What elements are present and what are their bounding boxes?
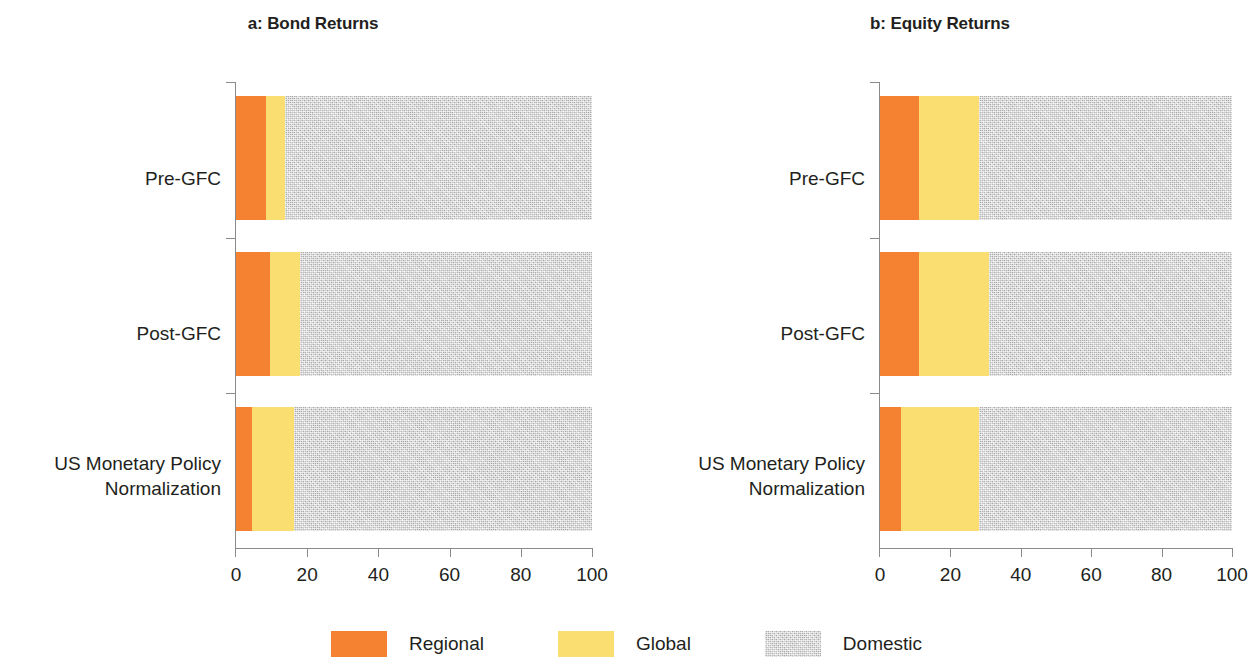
panel-title-bond: a: Bond Returns: [0, 14, 626, 34]
bar-segment-bond-1-global: [270, 252, 300, 376]
y-axis-tick-equity-1: [870, 238, 880, 239]
bar-segment-bond-0-regional: [236, 96, 266, 220]
bar-segment-equity-0-domestic: [979, 96, 1232, 220]
legend-item-domestic: Domestic: [765, 631, 922, 657]
x-axis-tick-equity-0: [879, 548, 880, 557]
bar-equity-2: [880, 407, 1232, 531]
category-label-post-gfc-equity: Post-GFC: [645, 321, 865, 346]
legend-label-domestic: Domestic: [843, 633, 922, 655]
x-axis-tick-label-bond-20: 20: [297, 564, 318, 586]
bar-bond-1: [236, 252, 592, 376]
bar-segment-bond-2-domestic: [294, 407, 592, 531]
x-axis-line-bond: [235, 548, 592, 549]
x-axis-tick-label-bond-40: 40: [368, 564, 389, 586]
x-axis-tick-bond-60: [450, 548, 451, 557]
x-axis-tick-label-equity-60: 60: [1081, 564, 1102, 586]
bar-segment-bond-0-global: [266, 96, 285, 220]
bar-segment-equity-2-regional: [880, 407, 901, 531]
category-label-us-monetary-policy-equity: US Monetary Policy Normalization: [645, 451, 865, 501]
category-label-us-monetary-policy-bond: US Monetary Policy Normalization: [10, 451, 221, 501]
x-axis-tick-equity-20: [950, 548, 951, 557]
x-axis-tick-label-equity-40: 40: [1010, 564, 1031, 586]
bar-segment-equity-1-global: [919, 252, 989, 376]
bar-segment-equity-1-domestic: [989, 252, 1232, 376]
x-axis-tick-label-bond-60: 60: [439, 564, 460, 586]
x-axis-tick-label-bond-100: 100: [576, 564, 608, 586]
x-axis-tick-equity-80: [1162, 548, 1163, 557]
legend-item-regional: Regional: [331, 631, 484, 657]
bar-segment-equity-2-domestic: [979, 407, 1232, 531]
category-label-pre-gfc-equity: Pre-GFC: [645, 166, 865, 191]
x-axis-tick-equity-60: [1091, 548, 1092, 557]
legend-swatch-domestic: [765, 631, 821, 657]
category-label-pre-gfc-bond: Pre-GFC: [10, 166, 221, 191]
x-axis-tick-label-equity-80: 80: [1151, 564, 1172, 586]
bar-segment-bond-0-domestic: [285, 96, 592, 220]
x-axis-tick-bond-20: [307, 548, 308, 557]
bar-segment-bond-2-regional: [236, 407, 252, 531]
bar-equity-1: [880, 252, 1232, 376]
x-axis-tick-label-bond-80: 80: [510, 564, 531, 586]
bar-segment-equity-0-global: [919, 96, 979, 220]
x-axis-tick-label-equity-20: 20: [940, 564, 961, 586]
y-axis-tick-equity-2: [870, 393, 880, 394]
plot-area-equity: 020406080100: [880, 82, 1232, 548]
bar-segment-equity-2-global: [901, 407, 978, 531]
category-label-post-gfc-bond: Post-GFC: [10, 321, 221, 346]
bar-bond-0: [236, 96, 592, 220]
legend-swatch-global: [558, 631, 614, 657]
bar-equity-0: [880, 96, 1232, 220]
bar-segment-equity-0-regional: [880, 96, 919, 220]
bar-segment-bond-1-domestic: [300, 252, 592, 376]
bar-segment-bond-2-global: [252, 407, 294, 531]
x-axis-tick-bond-0: [235, 548, 236, 557]
x-axis-tick-equity-100: [1232, 548, 1233, 557]
legend-item-global: Global: [558, 631, 691, 657]
x-axis-tick-bond-100: [592, 548, 593, 557]
y-axis-tick-bond-2: [226, 393, 236, 394]
y-axis-tick-bond-0: [226, 82, 236, 83]
y-axis-tick-equity-0: [870, 82, 880, 83]
bar-segment-equity-1-regional: [880, 252, 919, 376]
bar-bond-2: [236, 407, 592, 531]
legend-label-regional: Regional: [409, 633, 484, 655]
x-axis-tick-label-equity-0: 0: [875, 564, 886, 586]
panel-title-equity: b: Equity Returns: [627, 14, 1253, 34]
legend-label-global: Global: [636, 633, 691, 655]
chart-panel-bond: a: Bond Returns Pre-GFC Post-GFC US Mone…: [0, 0, 626, 610]
x-axis-tick-equity-40: [1021, 548, 1022, 557]
legend-swatch-regional: [331, 631, 387, 657]
chart-panel-equity: b: Equity Returns Pre-GFC Post-GFC US Mo…: [627, 0, 1253, 610]
bar-segment-bond-1-regional: [236, 252, 270, 376]
x-axis-tick-label-bond-0: 0: [231, 564, 242, 586]
x-axis-line-equity: [879, 548, 1232, 549]
x-axis-tick-bond-80: [521, 548, 522, 557]
x-axis-tick-label-equity-100: 100: [1216, 564, 1248, 586]
plot-area-bond: 020406080100: [236, 82, 592, 548]
chart-legend: Regional Global Domestic: [0, 624, 1253, 664]
x-axis-tick-bond-40: [378, 548, 379, 557]
y-axis-tick-bond-1: [226, 238, 236, 239]
